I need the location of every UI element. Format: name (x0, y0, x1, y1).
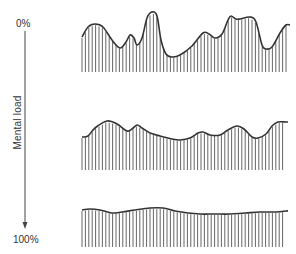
profile-high-variability (82, 12, 290, 72)
y-axis-arrowhead-icon (23, 222, 28, 229)
profile-low-variability (82, 208, 288, 247)
mental-load-diagram (0, 0, 296, 254)
profile-curve (82, 208, 288, 214)
profile-moderate-variability (82, 121, 288, 170)
